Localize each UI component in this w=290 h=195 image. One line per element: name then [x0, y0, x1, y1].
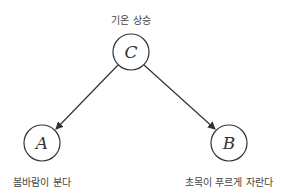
caption-c: 기온 상승: [111, 12, 150, 27]
node-b: B: [211, 125, 247, 161]
node-c: C: [113, 34, 149, 70]
caption-a: 봄바람이 분다: [13, 174, 70, 189]
node-a: A: [24, 125, 60, 161]
svg-text:C: C: [124, 42, 137, 62]
causal-diagram: C A B: [0, 0, 290, 195]
edge-c-to-a: [56, 65, 118, 129]
caption-b: 초목이 푸르게 자란다: [185, 174, 272, 189]
edge-c-to-b: [144, 65, 215, 129]
svg-text:A: A: [34, 133, 48, 153]
svg-text:B: B: [222, 133, 236, 153]
